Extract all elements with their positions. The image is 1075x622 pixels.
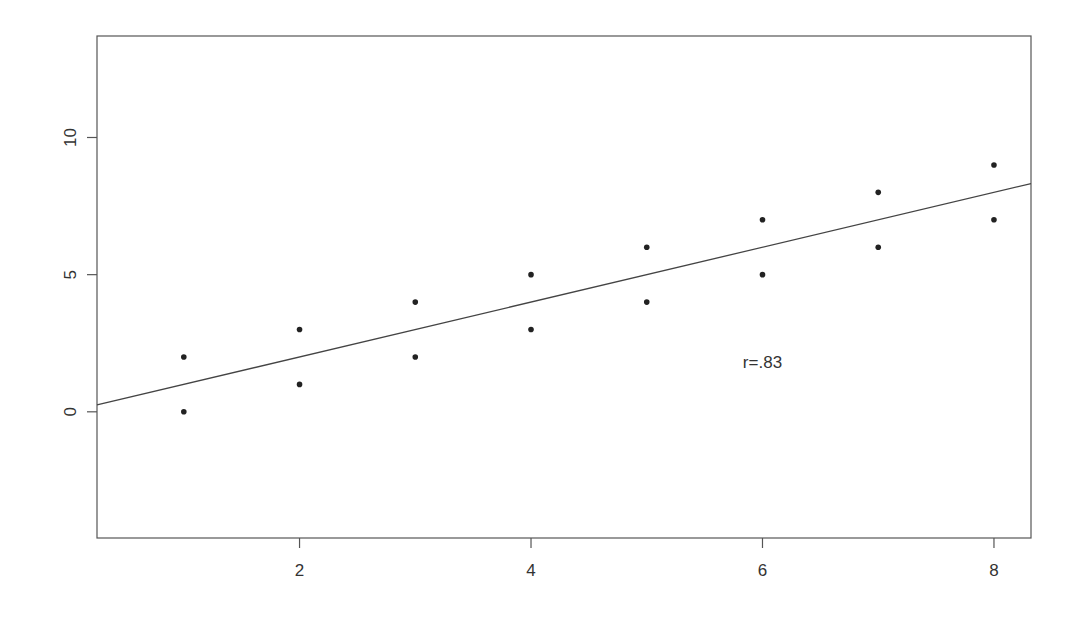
data-point [991,217,997,223]
x-axis: 2468 [295,538,999,580]
x-tick-label: 6 [758,561,767,580]
data-point [875,244,881,250]
data-point [297,327,303,333]
data-point [528,327,534,333]
data-point [760,217,766,223]
data-point [297,382,303,388]
plot-frame [97,36,1031,538]
data-point [412,354,418,360]
data-point [760,272,766,278]
data-point [412,299,418,305]
correlation-annotation: r=.83 [743,353,782,372]
data-point [875,190,881,196]
x-tick-label: 8 [989,561,998,580]
data-point [181,409,187,415]
data-point [181,354,187,360]
data-point [991,162,997,168]
data-point [644,244,650,250]
regression-line [97,184,1031,405]
y-tick-label: 5 [61,270,80,279]
scatter-plot: 0510 2468 r=.83 [0,0,1075,622]
y-tick-label: 10 [61,128,80,147]
x-tick-label: 4 [526,561,535,580]
y-axis: 0510 [61,128,97,417]
data-point [644,299,650,305]
y-tick-label: 0 [61,407,80,416]
data-point [528,272,534,278]
x-tick-label: 2 [295,561,304,580]
